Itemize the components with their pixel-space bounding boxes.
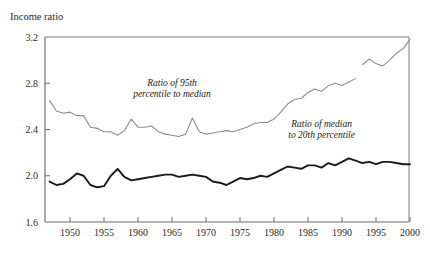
chart-annotations-layer: Ratio of 95thpercentile to medianRatio o… [132,78,355,141]
data-series-layer [50,39,410,187]
x-tick-label: 1990 [332,227,352,238]
chart-figure: Income ratio 3.22.82.42.01.6 19501955196… [0,0,430,257]
x-tick-label: 1975 [230,227,250,238]
x-axis-tick-marks [70,217,410,222]
ratio-95th-to-median-label: percentile to median [132,89,211,99]
x-axis-tick-labels: 1950195519601965197019751980198519901995… [60,227,420,238]
y-axis-tick-marks [45,83,50,176]
ratio-95th-to-median-label: Ratio of 95th [146,78,197,88]
y-tick-label: 2.0 [26,170,39,181]
x-tick-label: 1965 [162,227,182,238]
x-tick-label: 1960 [128,227,148,238]
y-tick-label: 3.2 [26,32,39,43]
y-tick-label: 1.6 [26,217,39,228]
x-tick-label: 1950 [60,227,80,238]
x-tick-label: 1980 [264,227,284,238]
x-tick-label: 1970 [196,227,216,238]
series-line [362,39,410,66]
y-tick-label: 2.4 [26,124,39,135]
x-tick-label: 2000 [400,227,420,238]
x-tick-label: 1995 [366,227,386,238]
series-line [50,158,410,187]
y-tick-label: 2.8 [26,78,39,89]
x-tick-label: 1985 [298,227,318,238]
chart-axis-title: Income ratio [10,11,63,22]
ratio-median-to-20th-label: to 20th percentile [288,130,355,140]
ratio-median-to-20th-label: Ratio of median [290,119,352,129]
income-ratio-line-chart: Income ratio 3.22.82.42.01.6 19501955196… [0,0,430,257]
x-tick-label: 1955 [94,227,114,238]
y-axis-tick-labels: 3.22.82.42.01.6 [26,32,39,228]
